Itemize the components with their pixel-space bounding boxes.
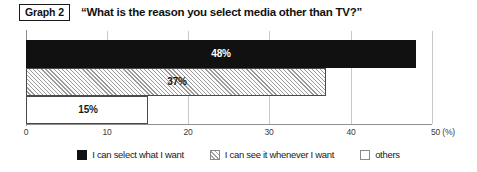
xtick-label-10: 10: [102, 127, 111, 137]
white-square-swatch-icon: [360, 150, 370, 160]
chart-legend: I can select what I want I can see it wh…: [0, 149, 477, 160]
gridline-50: [432, 31, 433, 124]
axis-line-x: [26, 124, 432, 125]
black-square-swatch-icon: [77, 150, 87, 160]
chart-plot-area: 48% 37% 15% 0 10 20 30 40 50 (%): [0, 0, 477, 140]
legend-label-select: I can select what I want: [92, 149, 184, 160]
bar-value-label-2: 37%: [167, 68, 186, 96]
graph-figure: Graph 2 “What is the reason you select m…: [0, 0, 477, 172]
legend-label-others: others: [375, 149, 400, 160]
xtick-label-50: 50 (%): [431, 127, 455, 137]
xtick-label-0: 0: [24, 127, 29, 137]
xtick-label-30: 30: [264, 127, 273, 137]
legend-item-others: others: [360, 149, 400, 160]
bar-value-label-1: 48%: [211, 40, 230, 68]
xtick-label-40: 40: [346, 127, 355, 137]
xtick-label-20: 20: [183, 127, 192, 137]
legend-item-whenever: I can see it whenever I want: [210, 149, 334, 160]
bar-value-label-3: 15%: [78, 96, 97, 124]
legend-item-select: I can select what I want: [77, 149, 184, 160]
legend-label-whenever: I can see it whenever I want: [225, 149, 334, 160]
hatched-square-swatch-icon: [210, 150, 220, 160]
